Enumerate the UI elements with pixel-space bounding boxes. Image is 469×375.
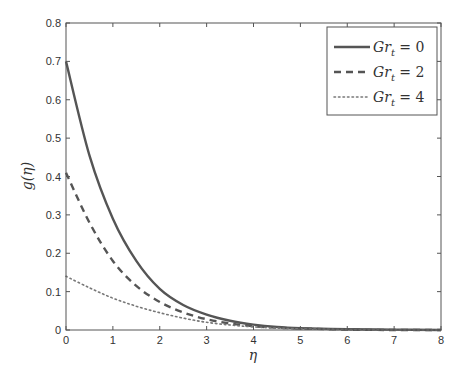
x-axis-label: η — [249, 347, 258, 363]
x-tick-label: 6 — [344, 334, 350, 346]
x-tick-label: 1 — [110, 334, 116, 346]
y-tick-label: 0.4 — [46, 171, 61, 183]
y-axis-label: g(η) — [19, 162, 35, 190]
y-tick-label: 0.2 — [46, 247, 61, 259]
y-tick-label: 0.7 — [46, 55, 61, 67]
line-chart: 012345678 00.10.20.30.40.50.60.70.8 η g(… — [0, 0, 469, 375]
chart-figure: 012345678 00.10.20.30.40.50.60.70.8 η g(… — [0, 0, 469, 375]
legend: Grt = 0Grt = 2Grt = 4 — [327, 27, 437, 115]
x-tick-label: 7 — [391, 334, 397, 346]
x-tick-label: 5 — [297, 334, 303, 346]
x-tick-label: 4 — [250, 334, 256, 346]
x-tick-labels: 012345678 — [63, 334, 444, 346]
x-tick-label: 3 — [204, 334, 210, 346]
y-tick-label: 0.8 — [46, 17, 61, 29]
y-tick-label: 0.1 — [46, 286, 61, 298]
x-tick-label: 2 — [157, 334, 163, 346]
y-tick-label: 0.3 — [46, 209, 61, 221]
y-tick-label: 0.6 — [46, 94, 61, 106]
series-line-dotted — [66, 276, 441, 330]
series-line-dashed — [66, 173, 441, 330]
x-tick-label: 0 — [63, 334, 69, 346]
y-tick-labels: 00.10.20.30.40.50.60.70.8 — [46, 17, 61, 336]
y-tick-label: 0.5 — [46, 132, 61, 144]
x-tick-label: 8 — [438, 334, 444, 346]
y-tick-label: 0 — [55, 324, 61, 336]
